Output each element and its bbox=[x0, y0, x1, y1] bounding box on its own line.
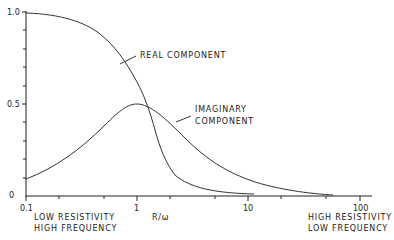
y-tick-label-0: 0 bbox=[9, 191, 14, 200]
imaginary-component-curve bbox=[26, 104, 333, 195]
x-tick-label-01: 0.1 bbox=[20, 204, 33, 213]
chart: 1.0 0.5 0 0.1 1 10 100 REAL COMPONENT IM… bbox=[0, 0, 394, 240]
real-component-label: REAL COMPONENT bbox=[140, 51, 226, 60]
left-annotation-line2: HIGH FREQUENCY bbox=[34, 224, 117, 233]
x-tick-label-10: 10 bbox=[243, 204, 253, 213]
x-ticks bbox=[26, 196, 360, 201]
x-axis-label: R/ω bbox=[152, 213, 169, 222]
left-annotation-line1: LOW RESISTIVITY bbox=[34, 213, 115, 222]
y-tick-label-05: 0.5 bbox=[7, 100, 20, 109]
y-tick-label-1: 1.0 bbox=[7, 8, 20, 17]
x-tick-label-1: 1 bbox=[134, 204, 139, 213]
x-tick-label-100: 100 bbox=[353, 204, 368, 213]
real-component-curve bbox=[26, 13, 254, 194]
imaginary-label-line2: COMPONENT bbox=[195, 117, 254, 126]
imaginary-label-line1: IMAGINARY bbox=[195, 105, 247, 114]
right-annotation-line1: HIGH RESISTIVITY bbox=[308, 213, 392, 222]
right-annotation-line2: LOW FREQUENCY bbox=[308, 224, 388, 233]
imag-leader bbox=[176, 116, 191, 122]
y-ticks bbox=[22, 12, 26, 178]
